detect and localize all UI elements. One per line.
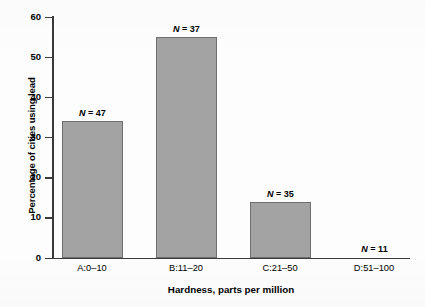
- y-tick-label-50: 50: [30, 51, 41, 62]
- y-tick-label-0: 0: [36, 252, 41, 263]
- y-tick-label-10: 10: [30, 211, 41, 222]
- bar-chart: Percentage of cities using lead 0 10 20 …: [0, 0, 425, 307]
- y-tick-label-30: 30: [30, 131, 41, 142]
- x-tick-label-b: B:11–20: [169, 263, 203, 273]
- y-tick-label-60: 60: [30, 11, 41, 22]
- x-tick-label-d: D:51–100: [354, 263, 394, 273]
- y-tick-50: 50: [45, 57, 52, 58]
- bar-annotation-d: N = 11: [361, 244, 387, 254]
- y-tick-label-40: 40: [30, 91, 41, 102]
- y-axis-title: Percentage of cities using lead: [26, 36, 37, 256]
- bar-category-c: N = 35: [250, 202, 311, 258]
- y-tick-10: 10: [45, 217, 52, 218]
- y-tick-0: 0: [45, 258, 52, 259]
- y-tick-30: 30: [45, 137, 52, 138]
- x-axis-title: Hardness, parts per million: [52, 284, 410, 295]
- x-tick-label-c: C:21–50: [262, 263, 297, 273]
- y-tick-20: 20: [45, 177, 52, 178]
- y-tick-60: 60: [45, 17, 52, 18]
- bar-category-b: N = 37: [156, 37, 217, 258]
- bar-category-a: N = 47: [62, 121, 123, 258]
- x-tick-label-a: A:0–10: [77, 263, 106, 273]
- y-tick-40: 40: [45, 97, 52, 98]
- bar-annotation-c: N = 35: [267, 189, 294, 199]
- y-tick-label-20: 20: [30, 171, 41, 182]
- bar-annotation-a: N = 47: [79, 108, 106, 118]
- plot-area: N = 47 N = 37 N = 35 N = 11: [52, 17, 410, 258]
- bar-annotation-b: N = 37: [173, 24, 200, 34]
